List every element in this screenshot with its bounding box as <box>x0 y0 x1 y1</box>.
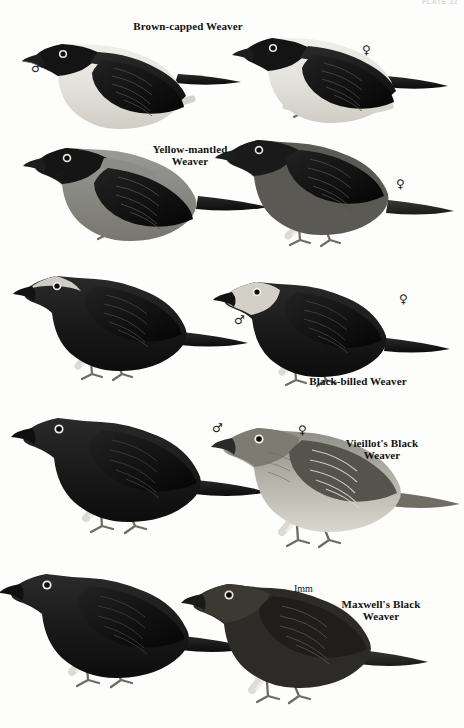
sex-symbol-female-vieillots: ♀ <box>298 424 307 436</box>
sex-symbol-male-black-billed: ♂ <box>234 314 245 326</box>
species-label-brown-capped-weaver: Brown-capped Weaver <box>108 20 268 32</box>
illustration-plate: PLATE 32 <box>0 0 464 728</box>
figure-black-billed-weaver-male <box>13 276 248 380</box>
sex-symbol-male-brown-capped: ♂ <box>31 62 42 74</box>
sex-symbol-male-vieillots: ♂ <box>212 422 223 434</box>
figure-black-billed-weaver-female <box>213 282 450 386</box>
species-label-maxwells-black-weaver: Maxwell's Black Weaver <box>320 598 442 622</box>
sex-symbol-female-brown-capped: ♀ <box>362 44 371 56</box>
figure-yellow-mantled-weaver-female <box>215 140 454 246</box>
figure-brown-capped-weaver-female <box>232 38 448 123</box>
figure-brown-capped-weaver-male <box>22 44 241 129</box>
sex-symbol-female-yellow-mantled: ♀ <box>396 178 405 190</box>
species-label-vieillots-black-weaver: Vieillot's Black Weaver <box>322 437 442 461</box>
species-label-yellow-mantled-weaver: Yellow-mantled Weaver <box>132 143 248 167</box>
sex-symbol-male-yellow-mantled: ♂ <box>55 170 66 182</box>
figure-vieillots-black-weaver-male <box>11 418 268 533</box>
immature-label: Imm <box>294 583 313 594</box>
sex-symbol-male-maxwells: ♂ <box>194 597 205 609</box>
species-label-black-billed-weaver: Black-billed Weaver <box>288 375 428 387</box>
sex-symbol-female-black-billed: ♀ <box>399 293 408 305</box>
